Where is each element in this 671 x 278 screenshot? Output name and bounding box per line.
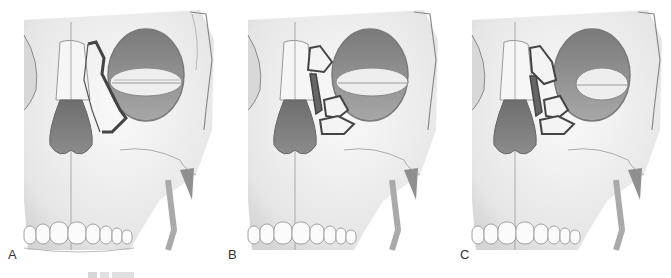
panel-c: C	[448, 0, 671, 262]
panel-label-a: A	[8, 247, 17, 262]
skull-illustration-b	[224, 0, 448, 262]
panel-a: A	[0, 0, 224, 262]
skull-illustration-c	[448, 0, 671, 262]
panel-b: B	[224, 0, 448, 262]
panel-label-c: C	[460, 247, 469, 262]
panel-label-b: B	[228, 247, 237, 262]
skull-illustration-a	[0, 0, 224, 262]
figure-caption-clipped	[88, 272, 134, 278]
